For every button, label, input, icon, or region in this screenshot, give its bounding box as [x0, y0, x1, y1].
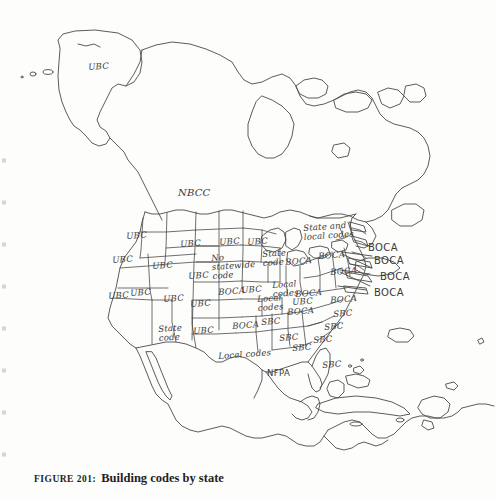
map-label-idaho-ubc: UBC [152, 261, 173, 272]
canada-south-border [145, 210, 310, 218]
map-label-oregon-ubc: UBC [112, 255, 133, 266]
map-label-boca-leader-2: BOCA [374, 256, 404, 267]
figure-number: FIGURE 201: [34, 474, 96, 484]
bermuda-dot [478, 338, 484, 344]
map-label-arkansas-sbc: SBC [261, 317, 281, 327]
northern-lake-2 [388, 328, 414, 342]
map-label-kentucky-local-codes: Local codes [257, 293, 284, 313]
mexico-east-coast [266, 372, 312, 420]
newfoundland [392, 204, 424, 226]
map-label-colorado-ubc: UBC [190, 299, 211, 310]
map-label-oklahoma-boca: BOCA [232, 320, 259, 331]
map-figure [0, 0, 496, 455]
map-label-ohio-boca: BOCA [318, 250, 345, 261]
caribbean-islands [316, 359, 458, 430]
map-label-montana-ubc: UBC [180, 239, 201, 250]
alaska-inland-detail [78, 44, 100, 47]
map-label-northeast-state-local: State and local codes [303, 221, 354, 243]
aleutian-islands [21, 70, 53, 78]
baja-california [146, 352, 172, 400]
figure-page: UBCNBCCUBCUBCUBCUBCUBCUBCUBCUBCUBCState … [0, 0, 496, 498]
map-label-canada-nbcc: NBCC [178, 188, 210, 199]
hudson-inner-island [332, 143, 350, 158]
map-label-nevada-ubc: UBC [130, 288, 151, 299]
map-label-wisconsin-state-code: State code [262, 248, 287, 268]
alaska-canada-border [126, 50, 142, 86]
map-label-georgia-sbc: SBC [313, 335, 333, 345]
arctic-island-3 [378, 88, 404, 108]
map-label-carolina-boca: BOCA [287, 306, 314, 317]
map-label-florida-sbc: SBC [322, 360, 342, 370]
map-label-mississippi-sbc: SBC [279, 333, 299, 343]
map-label-minnesota-ubc: UBC [247, 237, 268, 248]
mexico-inland-border [254, 370, 262, 398]
map-label-california-ubc: UBC [108, 291, 129, 302]
map-label-scarolina-sbc: SBC [324, 322, 344, 332]
map-label-alaska-ubc: UBC [88, 62, 109, 73]
map-label-alabama-sbc: SBC [292, 343, 312, 353]
map-label-pennsylvania-boca: BOCA [330, 266, 357, 277]
map-label-newmexico-ubc: UBC [193, 326, 214, 337]
map-label-boca-leader-4: BOCA [374, 288, 404, 299]
map-label-iowa-boca: BOCA [285, 256, 312, 267]
south-america-tip [462, 404, 494, 408]
map-label-northdakota-ubc: UBC [219, 237, 240, 248]
map-label-louisiana-nfpa: NFPA [267, 369, 290, 378]
map-label-utah-ubc: UBC [163, 294, 184, 305]
map-label-wyoming-ubc: UBC [188, 271, 209, 282]
figure-caption: FIGURE 201:Building codes by state [34, 468, 224, 486]
map-label-washington-ubc: UBC [126, 231, 147, 242]
map-label-nebraska-no-statewide: No statewide code [211, 251, 256, 281]
arctic-island-4 [404, 84, 426, 102]
map-label-boca-leader-1: BOCA [368, 243, 398, 254]
figure-title: Building codes by state [101, 471, 224, 485]
map-label-virginia-boca: BOCA [330, 294, 357, 305]
map-label-boca-leader-3: BOCA [380, 272, 410, 283]
map-label-ncarolina-sbc: SBC [333, 309, 353, 319]
map-label-arizona-state-code: State code [158, 323, 183, 343]
hudson-bay [248, 96, 294, 158]
arctic-island-1 [296, 78, 328, 98]
alaska-panhandle [110, 138, 162, 220]
arctic-island-2 [334, 92, 372, 112]
